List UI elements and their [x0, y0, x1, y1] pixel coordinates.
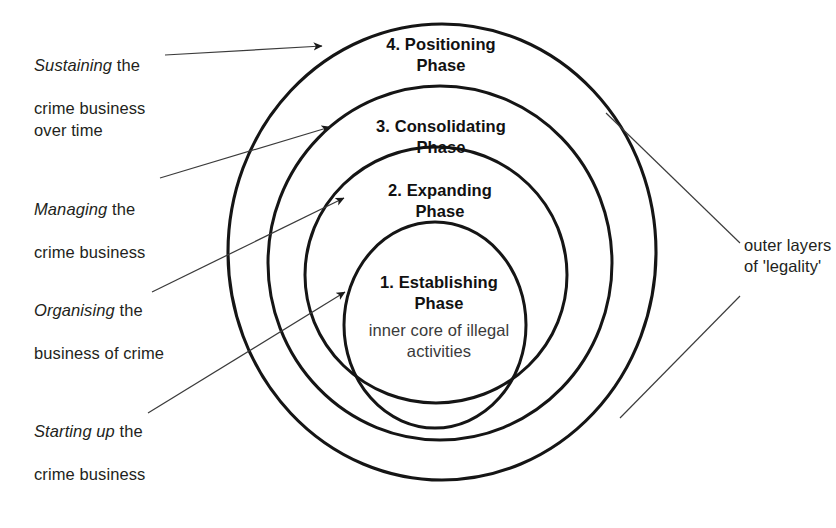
ring-4-label: 4. Positioning Phase	[336, 34, 546, 76]
outer-layers-label: outer layers of 'legality'	[744, 235, 836, 278]
callout-sustaining: Sustaining the crime business over time	[34, 34, 184, 141]
ring-2-label-line1: 2. Expanding	[336, 180, 544, 201]
callout-managing-emphasis: Managing	[34, 200, 107, 218]
callout-starting-up-rest: the	[115, 422, 143, 440]
leader-line-sustaining	[165, 46, 322, 55]
ring-4-label-line2: Phase	[336, 55, 546, 76]
callout-organising-lines: business of crime	[34, 344, 164, 362]
callout-starting-up: Starting up the crime business	[34, 400, 194, 486]
inner-core-caption: inner core of illegal activities	[336, 320, 542, 363]
ring-1-label: 1. Establishing Phase	[330, 272, 548, 314]
ring-4-outline	[228, 24, 656, 480]
callout-managing: Managing the crime business	[34, 178, 184, 264]
ring-1-label-line2: Phase	[330, 293, 548, 314]
callout-sustaining-lines: crime business over time	[34, 99, 145, 138]
callout-starting-up-lines: crime business	[34, 465, 145, 483]
leader-line-outer-layers-bottom	[620, 296, 740, 418]
ring-4-label-line1: 4. Positioning	[336, 34, 546, 55]
ring-1-label-line1: 1. Establishing	[330, 272, 548, 293]
callout-managing-rest: the	[107, 200, 135, 218]
ring-3-label: 3. Consolidating Phase	[326, 116, 556, 158]
callout-sustaining-rest: the	[112, 56, 140, 74]
leader-line-outer-layers-top	[606, 113, 740, 243]
callout-organising-emphasis: Organising	[34, 301, 115, 319]
callout-organising-rest: the	[115, 301, 143, 319]
ring-3-label-line1: 3. Consolidating	[326, 116, 556, 137]
callout-managing-lines: crime business	[34, 243, 145, 261]
callout-organising: Organising the business of crime	[34, 279, 199, 365]
ring-3-label-line2: Phase	[326, 137, 556, 158]
ring-2-label: 2. Expanding Phase	[336, 180, 544, 222]
callout-starting-up-emphasis: Starting up	[34, 422, 115, 440]
callout-sustaining-emphasis: Sustaining	[34, 56, 112, 74]
ring-2-label-line2: Phase	[336, 201, 544, 222]
